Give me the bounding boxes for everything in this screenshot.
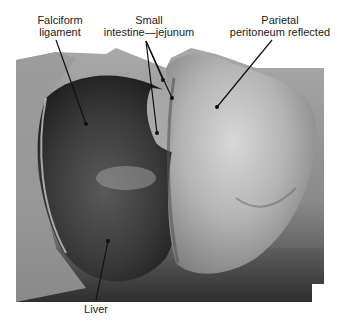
- leader-line-parietal: [217, 40, 272, 107]
- label-falciform-ligament: Falciform ligament: [30, 14, 90, 38]
- anatomy-figure: Falciform ligament Small intestine—jejun…: [0, 0, 337, 323]
- label-line: Parietal: [226, 14, 334, 26]
- leader-line-falciform: [56, 40, 86, 124]
- leader-lines: [0, 0, 337, 323]
- label-parietal-peritoneum-reflected: Parietal peritoneum reflected: [226, 14, 334, 38]
- leader-line-liver: [96, 241, 108, 300]
- label-line: Liver: [80, 303, 112, 315]
- label-liver: Liver: [80, 303, 112, 315]
- label-line: peritoneum reflected: [226, 26, 334, 38]
- label-line: Falciform: [30, 14, 90, 26]
- label-line: Small: [103, 14, 195, 26]
- label-line: intestine—jejunum: [103, 26, 195, 38]
- label-small-intestine-jejunum: Small intestine—jejunum: [103, 14, 195, 38]
- label-line: ligament: [30, 26, 90, 38]
